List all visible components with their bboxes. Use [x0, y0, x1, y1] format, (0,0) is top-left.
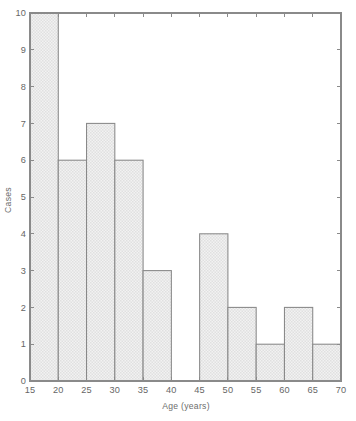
y-axis-title: Cases — [3, 187, 13, 213]
x-tick-label: 60 — [279, 385, 290, 395]
histogram-bar — [200, 234, 228, 381]
y-tick-label: 7 — [21, 119, 26, 129]
histogram-bar — [284, 307, 312, 381]
y-tick-label: 1 — [21, 339, 26, 349]
histogram-bar — [30, 13, 58, 381]
histogram-bar — [87, 123, 115, 381]
y-axis-tick-labels: 012345678910 — [15, 8, 26, 386]
x-axis-title: Age (years) — [162, 401, 210, 411]
x-tick-label: 15 — [25, 385, 36, 395]
x-tick-label: 40 — [166, 385, 177, 395]
x-tick-label: 45 — [194, 385, 205, 395]
x-tick-label: 20 — [53, 385, 64, 395]
histogram-bar — [58, 160, 86, 381]
y-tick-label: 10 — [15, 8, 26, 18]
x-tick-label: 70 — [336, 385, 347, 395]
y-tick-label: 4 — [21, 229, 26, 239]
x-tick-label: 50 — [223, 385, 234, 395]
histogram-bar — [256, 344, 284, 381]
y-tick-label: 3 — [21, 266, 26, 276]
y-tick-label: 8 — [21, 82, 26, 92]
x-tick-label: 35 — [138, 385, 149, 395]
y-tick-label: 6 — [21, 155, 26, 165]
histogram-bar — [143, 271, 171, 381]
histogram-bar — [115, 160, 143, 381]
histogram-bar — [228, 307, 256, 381]
x-tick-label: 30 — [110, 385, 121, 395]
histogram-bar — [313, 344, 341, 381]
y-tick-label: 0 — [21, 376, 26, 386]
histogram-chart: 152025303540455055606570 012345678910 Ag… — [0, 0, 356, 421]
x-axis-tick-labels: 152025303540455055606570 — [25, 385, 347, 395]
histogram-figure: 152025303540455055606570 012345678910 Ag… — [0, 0, 356, 421]
x-tick-label: 65 — [307, 385, 318, 395]
y-tick-label: 5 — [21, 192, 26, 202]
y-tick-label: 9 — [21, 45, 26, 55]
x-tick-label: 25 — [81, 385, 92, 395]
x-tick-label: 55 — [251, 385, 262, 395]
y-tick-label: 2 — [21, 303, 26, 313]
